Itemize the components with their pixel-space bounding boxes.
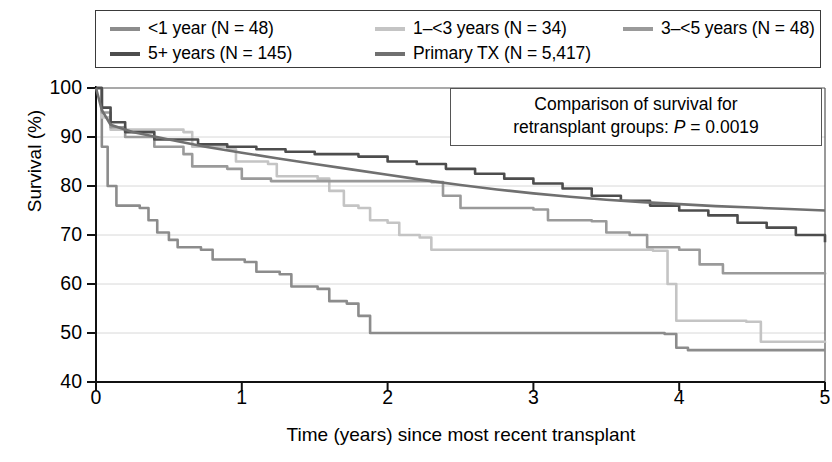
x-tick-label-3: 3 [513,388,553,408]
annotation-line-2-post: = 0.0019 [685,117,758,137]
y-tick-label-50: 50 [22,323,82,343]
annotation-line-2: retransplant groups: P = 0.0019 [461,116,811,139]
x-tick-label-4: 4 [659,388,699,408]
p-value-annotation: Comparison of survival for retransplant … [450,88,822,146]
annotation-p-symbol: P [674,117,686,137]
y-axis-title: Survival (%) [24,46,46,276]
survival-chart-figure: <1 year (N = 48) 1–<3 years (N = 34) 3–<… [0,0,832,462]
x-tick-label-0: 0 [76,388,116,408]
x-tick-label-2: 2 [368,388,408,408]
x-axis-tick-labels: 012345 [0,388,832,418]
y-tick-label-60: 60 [22,274,82,294]
annotation-line-2-pre: retransplant groups: [513,117,674,137]
x-tick-label-1: 1 [222,388,262,408]
annotation-line-1: Comparison of survival for [461,93,811,116]
x-axis-title: Time (years) since most recent transplan… [96,424,826,446]
x-tick-label-5: 5 [805,388,832,408]
